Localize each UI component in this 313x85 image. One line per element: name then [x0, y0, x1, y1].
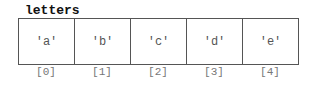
index-label: [0] [18, 66, 74, 78]
array-cell: 'd' [187, 19, 243, 64]
array-cell: 'e' [243, 19, 298, 64]
index-label: [3] [186, 66, 242, 78]
array-indices: [0] [1] [2] [3] [4] [18, 66, 298, 78]
array-cell: 'c' [131, 19, 187, 64]
array-cells: 'a' 'b' 'c' 'd' 'e' [18, 18, 299, 65]
index-label: [1] [74, 66, 130, 78]
index-label: [2] [130, 66, 186, 78]
index-label: [4] [242, 66, 298, 78]
array-name-label: letters [25, 3, 80, 18]
array-cell: 'a' [19, 19, 75, 64]
array-cell: 'b' [75, 19, 131, 64]
